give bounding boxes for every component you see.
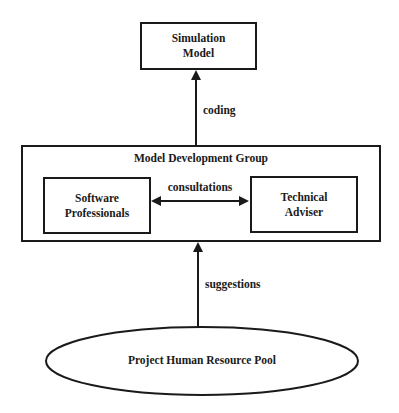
simulation-model-box: Simulation Model: [140, 22, 257, 70]
software-professionals-label-line2: Professionals: [65, 206, 129, 221]
technical-adviser-box: Technical Adviser: [250, 176, 358, 233]
suggestions-label: suggestions: [205, 277, 261, 292]
consultations-label: consultations: [150, 180, 250, 195]
simulation-model-label-line2: Model: [172, 46, 226, 61]
technical-adviser-label-line1: Technical: [281, 190, 328, 205]
simulation-model-label-line1: Simulation: [172, 31, 226, 46]
project-human-resource-pool-label: Project Human Resource Pool: [46, 353, 358, 368]
software-professionals-box: Software Professionals: [43, 177, 151, 234]
software-professionals-label-line1: Software: [65, 191, 129, 206]
technical-adviser-label-line2: Adviser: [281, 205, 328, 220]
coding-label: coding: [203, 103, 236, 118]
model-development-group-title: Model Development Group: [21, 151, 381, 166]
